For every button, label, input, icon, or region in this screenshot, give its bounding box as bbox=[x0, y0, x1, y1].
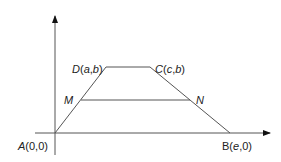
label-m: M bbox=[64, 94, 74, 106]
label-b: B(e,0) bbox=[222, 140, 252, 152]
label-n: N bbox=[196, 94, 204, 106]
label-c: C(c,b) bbox=[155, 63, 185, 75]
label-a: A(0,0) bbox=[17, 140, 48, 152]
label-d: D(a,b) bbox=[72, 63, 103, 75]
trapezoid-diagram: D(a,b) C(c,b) M N A(0,0) B(e,0) bbox=[0, 0, 281, 162]
